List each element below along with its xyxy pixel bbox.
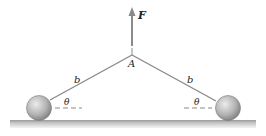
rod-right-length-label: b — [187, 74, 193, 85]
angle-right-label: θ — [194, 97, 200, 107]
point-a-label: A — [127, 58, 135, 69]
rod-left-length-label: b — [74, 74, 80, 85]
force-arrow-icon — [129, 7, 136, 55]
angle-left-label: θ — [64, 97, 70, 107]
ball-right — [216, 96, 241, 121]
two-ball-linkage-diagram: F A b b θ θ — [0, 0, 266, 136]
rod-right — [132, 55, 216, 101]
ball-left — [27, 96, 52, 121]
force-label: F — [137, 9, 147, 22]
ground-surface — [10, 120, 256, 128]
rod-left — [50, 55, 132, 100]
